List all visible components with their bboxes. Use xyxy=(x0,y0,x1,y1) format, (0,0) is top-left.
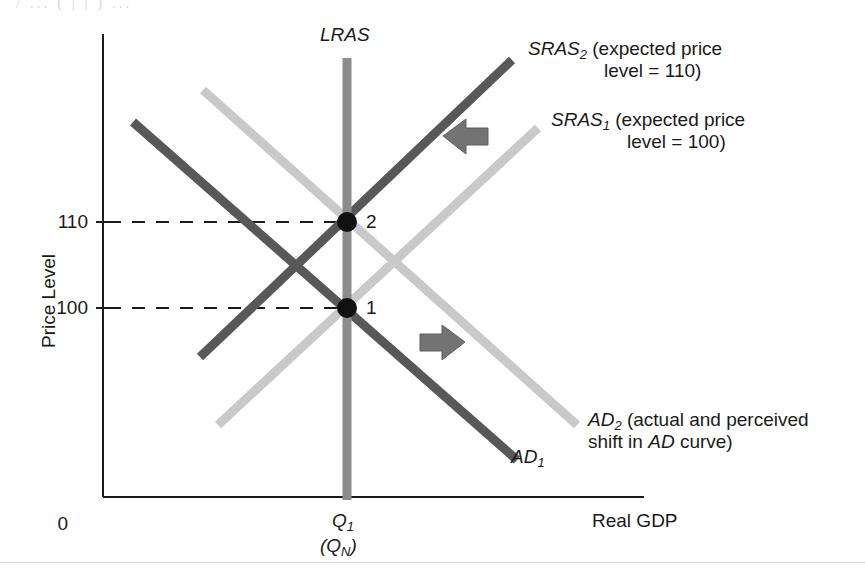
curve-label-ad2-note1: (actual and perceived xyxy=(622,409,809,430)
x-tick-q-subscript: 1 xyxy=(347,519,354,534)
curve-label-ad2: AD2 (actual and perceivedshift in AD cur… xyxy=(588,409,809,454)
y-tick-label-110: 110 xyxy=(20,211,88,233)
curve-label-sras2-note1: (expected price xyxy=(587,38,722,59)
x-tick-qn-open: (Q xyxy=(320,535,341,556)
curve-ad1 xyxy=(133,122,517,460)
figure-container: / ... ( | | ) ... Price Level xyxy=(0,0,865,573)
x-axis-title: Real GDP xyxy=(592,510,678,532)
curve-label-ad2-note2b: AD xyxy=(648,431,674,452)
equilibrium-point-1 xyxy=(337,298,357,318)
curve-label-ad2-name: AD xyxy=(588,409,614,430)
x-tick-qn-close: ) xyxy=(351,535,357,556)
ad-shift-arrow xyxy=(420,325,465,360)
x-tick-qn-subscript: N xyxy=(341,544,350,559)
curve-label-sras2: SRAS2 (expected pricelevel = 110) xyxy=(528,38,722,83)
curve-label-ad1: AD1 xyxy=(511,446,545,468)
origin-label: 0 xyxy=(40,513,68,535)
equilibrium-point-2-label: 2 xyxy=(366,211,377,233)
equilibrium-point-2 xyxy=(337,212,357,232)
curve-label-lras: LRAS xyxy=(320,24,370,46)
curve-label-sras1: SRAS1 (expected pricelevel = 100) xyxy=(551,109,745,154)
curve-label-sras1-subscript: 1 xyxy=(603,118,610,133)
curve-label-sras2-name: SRAS xyxy=(528,38,580,59)
x-tick-label-qn: (QN) xyxy=(320,535,357,557)
curve-label-sras2-subscript: 2 xyxy=(580,47,587,62)
curve-label-ad1-name: AD xyxy=(511,446,537,467)
x-tick-label-q1: Q1 xyxy=(332,510,354,532)
chart-canvas xyxy=(0,0,865,573)
equilibrium-point-1-label: 1 xyxy=(366,297,377,319)
curve-sras1 xyxy=(218,128,538,425)
curve-label-sras1-note2: level = 100) xyxy=(551,131,726,153)
bottom-divider xyxy=(0,562,865,563)
curve-label-sras1-name: SRAS xyxy=(551,109,603,130)
curve-label-ad1-subscript: 1 xyxy=(537,455,544,470)
curve-label-ad2-note2c: curve) xyxy=(675,431,733,452)
y-tick-label-100: 100 xyxy=(20,297,88,319)
curve-label-sras2-note2: level = 110) xyxy=(528,60,701,82)
curve-label-sras1-note1: (expected price xyxy=(610,109,745,130)
x-tick-q-letter: Q xyxy=(332,510,347,531)
curve-label-ad2-note2a: shift in xyxy=(588,431,648,452)
curve-label-ad2-subscript: 2 xyxy=(614,418,621,433)
